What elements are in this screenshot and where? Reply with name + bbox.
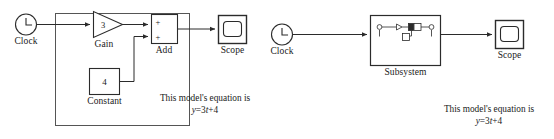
- left-clock-block[interactable]: [16, 14, 37, 35]
- right-model-annotation: This model's equation is y=3t+4: [444, 103, 534, 127]
- right-annotation-line2: y=3t+4: [444, 115, 534, 127]
- right-clock-block[interactable]: [272, 24, 293, 45]
- right-subsystem-label: Subsystem: [384, 67, 426, 78]
- add-port-sign-1: +: [156, 17, 161, 27]
- right-subsystem-block[interactable]: [371, 16, 441, 66]
- left-model-annotation: This model's equation is y=3t+4: [160, 92, 250, 116]
- add-port-sign-2: +: [156, 32, 161, 42]
- right-scope-label: Scope: [498, 50, 522, 61]
- left-add-label: Add: [156, 45, 173, 56]
- scope-screen-icon: [224, 22, 242, 37]
- diagram-canvas: Clock 3 Gain + + Add 4 Constant Scope Th…: [0, 0, 554, 139]
- left-gain-label: Gain: [95, 39, 114, 50]
- gain-value: 3: [101, 20, 105, 30]
- right-annotation-line1: This model's equation is: [444, 104, 534, 114]
- gain-triangle-icon: [94, 12, 123, 38]
- left-scope-label: Scope: [221, 45, 245, 56]
- left-constant-label: Constant: [87, 96, 122, 107]
- constant-value: 4: [102, 77, 107, 87]
- scope-screen-icon: [501, 27, 519, 42]
- right-scope-block[interactable]: [496, 21, 524, 49]
- left-scope-block[interactable]: [219, 16, 247, 44]
- right-clock-label: Clock: [270, 46, 293, 57]
- wire-constant-to-add: [120, 37, 149, 82]
- left-annotation-line1: This model's equation is: [160, 93, 250, 103]
- left-gain-block[interactable]: [94, 12, 123, 38]
- left-annotation-line2: y=3t+4: [160, 104, 250, 116]
- left-clock-label: Clock: [14, 36, 37, 47]
